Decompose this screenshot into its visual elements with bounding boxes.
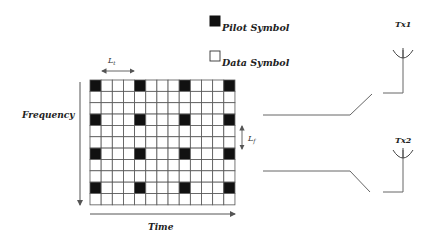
data-symbol-cell <box>123 182 134 193</box>
data-symbol-cell <box>213 125 224 136</box>
pilot-symbol-cell <box>179 182 190 193</box>
data-symbol-cell <box>146 171 157 182</box>
lt-label: Lt <box>107 56 116 66</box>
data-symbol-cell <box>112 80 123 91</box>
pilot-symbol-cell <box>90 114 101 125</box>
data-symbol-cell <box>112 171 123 182</box>
pilot-symbol-cell <box>179 148 190 159</box>
data-symbol-cell <box>224 103 235 114</box>
data-symbol-cell <box>112 148 123 159</box>
data-symbol-cell <box>157 171 168 182</box>
data-symbol-cell <box>190 125 201 136</box>
data-symbol-cell <box>213 91 224 102</box>
data-symbol-cell <box>157 137 168 148</box>
data-symbol-cell <box>123 194 134 205</box>
data-symbol-cell <box>179 171 190 182</box>
tx2-antenna-icon: Tx2 <box>393 135 413 158</box>
data-symbol-cell <box>179 125 190 136</box>
data-symbol-cell <box>101 114 112 125</box>
data-symbol-cell <box>101 137 112 148</box>
data-symbol-cell <box>123 159 134 170</box>
data-symbol-cell <box>146 194 157 205</box>
data-symbol-cell <box>146 125 157 136</box>
data-symbol-cell <box>135 171 146 182</box>
data-symbol-cell <box>213 103 224 114</box>
data-symbol-cell <box>213 194 224 205</box>
data-symbol-cell <box>157 91 168 102</box>
data-symbol-cell <box>135 103 146 114</box>
data-symbol-cell <box>135 125 146 136</box>
data-symbol-cell <box>157 80 168 91</box>
data-symbol-cell <box>202 159 213 170</box>
data-symbol-cell <box>213 137 224 148</box>
data-symbol-cell <box>213 182 224 193</box>
data-symbol-cell <box>90 171 101 182</box>
data-symbol-cell <box>146 103 157 114</box>
data-symbol-cell <box>157 148 168 159</box>
data-symbol-cell <box>168 137 179 148</box>
data-symbol-cell <box>135 91 146 102</box>
data-symbol-cell <box>213 80 224 91</box>
data-symbol-cell <box>179 194 190 205</box>
data-symbol-cell <box>101 103 112 114</box>
data-symbol-cell <box>190 171 201 182</box>
pilot-symbol-cell <box>135 148 146 159</box>
data-symbol-cell <box>112 182 123 193</box>
pilot-symbol-cell <box>135 80 146 91</box>
data-symbol-cell <box>112 125 123 136</box>
time-label: Time <box>148 222 174 232</box>
data-symbol-cell <box>90 125 101 136</box>
data-symbol-cell <box>202 194 213 205</box>
data-symbol-cell <box>112 159 123 170</box>
data-symbol-cell <box>213 114 224 125</box>
data-legend-label: Data Symbol <box>221 57 290 68</box>
frequency-label: Frequency <box>21 110 75 120</box>
legend: Pilot Symbol Data Symbol <box>210 16 290 68</box>
data-symbol-cell <box>135 194 146 205</box>
data-symbol-cell <box>168 114 179 125</box>
data-symbol-cell <box>213 171 224 182</box>
data-symbol-cell <box>157 114 168 125</box>
data-symbol-cell <box>190 91 201 102</box>
data-symbol-cell <box>90 103 101 114</box>
pilot-symbol-cell <box>224 182 235 193</box>
data-symbol-cell <box>146 148 157 159</box>
data-symbol-cell <box>202 125 213 136</box>
data-symbol-cell <box>179 159 190 170</box>
data-symbol-cell <box>146 114 157 125</box>
data-symbol-cell <box>90 194 101 205</box>
time-axis: Time <box>90 214 235 232</box>
data-symbol-cell <box>101 194 112 205</box>
frequency-axis: Frequency <box>21 82 80 205</box>
pilot-symbol-cell <box>90 80 101 91</box>
data-symbol-cell <box>179 103 190 114</box>
data-symbol-cell <box>190 137 201 148</box>
data-symbol-cell <box>190 182 201 193</box>
tx2-label: Tx2 <box>395 135 412 145</box>
data-symbol-cell <box>202 80 213 91</box>
data-symbol-cell <box>168 80 179 91</box>
data-symbol-cell <box>146 91 157 102</box>
data-symbol-cell <box>168 182 179 193</box>
data-symbol-cell <box>157 194 168 205</box>
data-symbol-cell <box>202 137 213 148</box>
data-symbol-cell <box>224 171 235 182</box>
data-symbol-cell <box>112 103 123 114</box>
data-symbol-cell <box>123 148 134 159</box>
data-symbol-cell <box>112 137 123 148</box>
data-symbol-cell <box>168 103 179 114</box>
pilot-pattern-diagram: Pilot Symbol Data Symbol Lt Frequency Lf… <box>0 0 433 238</box>
pilot-symbol-cell <box>135 114 146 125</box>
pilot-symbol-cell <box>135 182 146 193</box>
pilot-symbol-cell <box>224 148 235 159</box>
data-symbol-cell <box>168 125 179 136</box>
data-symbol-cell <box>202 182 213 193</box>
data-symbol-cell <box>168 159 179 170</box>
data-symbol-cell <box>123 114 134 125</box>
data-symbol-cell <box>146 137 157 148</box>
data-legend-swatch <box>210 51 220 61</box>
data-symbol-cell <box>101 159 112 170</box>
data-symbol-cell <box>224 159 235 170</box>
pilot-legend-swatch <box>210 16 220 26</box>
data-symbol-cell <box>123 80 134 91</box>
